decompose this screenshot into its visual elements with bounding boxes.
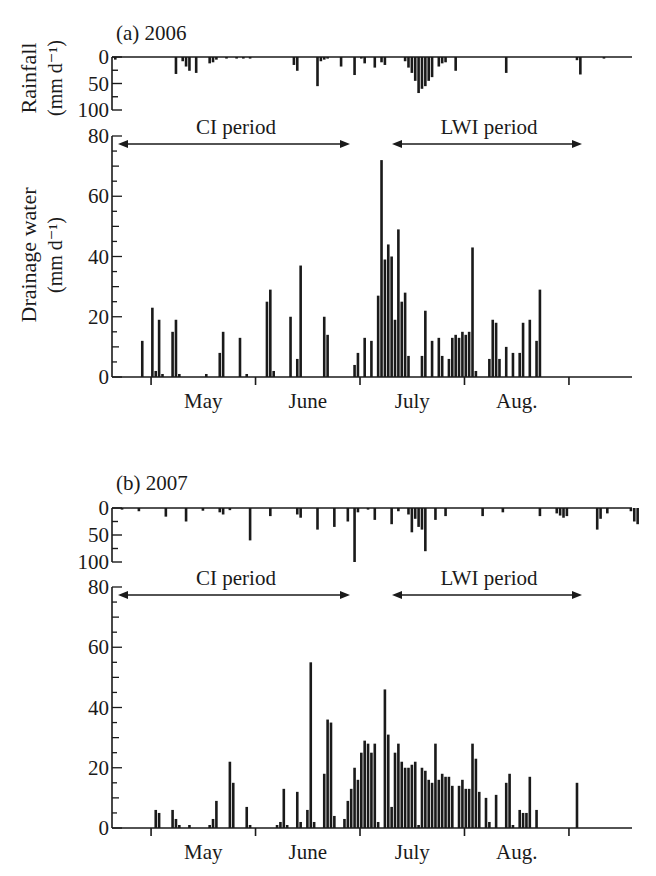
drain-tick-label: 80 [88,124,109,148]
drainage-bar [464,335,467,377]
drainage-bar [448,359,451,377]
drainage-bar [175,320,178,377]
drainage-bar [458,338,461,377]
drainage-bar [326,335,329,377]
rainfall-bar [222,508,225,514]
drainage-bar [269,290,272,377]
drainage-bar [522,813,525,828]
drainage-axis: 806040200 [88,575,632,840]
drainage-bar [512,825,515,828]
drainage-bar [478,792,481,828]
drainage-bars [141,160,541,377]
rainfall-bar [633,508,636,522]
drainage-bar [421,356,424,377]
rainfall-bar [293,57,296,65]
figure: (a) 2006 Rainfall (mm d⁻¹) Drainage wate… [0,0,656,876]
rainfall-bar [326,57,329,59]
drainage-bar [377,822,380,828]
rainfall-bar [175,57,178,74]
drainage-bar [539,290,542,377]
rainfall-axis: 050100 [78,45,633,122]
drainage-bar [390,257,393,378]
drainage-bar [232,783,235,828]
drainage-bar [171,810,174,828]
rainfall-bar [249,508,252,540]
drainage-bar [387,735,390,828]
month-axis: MayJuneJulyAug. [151,828,569,864]
rainfall-bar [411,508,414,532]
drainage-bar [512,353,515,377]
rainfall-bar [373,57,376,68]
month-axis: MayJuneJulyAug. [151,377,569,413]
drainage-bar [451,338,454,377]
rainfall-bar [539,508,542,516]
rainfall-bar [505,57,508,73]
svg-text:(mm d⁻¹): (mm d⁻¹) [44,217,67,293]
drainage-bar [451,786,454,828]
panel-2006: (a) 2006 Rainfall (mm d⁻¹) Drainage wate… [16,21,632,413]
rainfall-bar [397,508,400,511]
drain-tick-label: 60 [88,635,109,659]
month-label: June [289,840,328,864]
drainage-bar [178,374,181,377]
month-label: Aug. [496,840,537,864]
drainage-bar [222,332,225,377]
drainage-bar [299,266,302,377]
drainage-bar [491,320,494,377]
rainfall-bar [353,57,356,75]
rainfall-bar [249,57,252,59]
rainfall-axis-label: Rainfall (mm d⁻¹) [16,40,67,116]
drainage-bar [471,247,474,377]
drainage-bar [208,825,211,828]
period-label: CI period [196,566,276,590]
rainfall-bar [363,57,366,63]
rainfall-bar [218,508,221,512]
drainage-bar [431,783,434,828]
rainfall-bar [424,57,427,86]
rainfall-bar [599,508,602,519]
drainage-bar [363,741,366,828]
month-label: June [289,389,328,413]
rainfall-bar [202,508,205,511]
drainage-bar [350,789,353,828]
drainage-bar [468,789,471,828]
drainage-bar [171,332,174,377]
rainfall-bar [417,57,420,93]
drainage-bar [535,810,538,828]
drainage-bar [438,338,441,377]
drainage-bar [249,825,252,828]
rainfall-bar [441,57,444,63]
rainfall-bar [340,57,343,67]
rainfall-bar [636,508,639,524]
rainfall-bar [185,57,188,67]
lwi-period-arrow: LWI period [392,566,582,599]
drainage-bar [205,374,208,377]
drainage-bar [367,744,370,828]
drainage-bar [414,762,417,828]
drainage-bar [505,783,508,828]
rain-tick-label: 50 [88,72,109,96]
drainage-bar [272,371,275,377]
drainage-bar [245,807,248,828]
period-label: LWI period [441,566,538,590]
drainage-bar [407,768,410,828]
month-label: July [395,389,431,413]
rainfall-bar [229,508,232,510]
drainage-bar [353,768,356,828]
drainage-bar [333,816,336,828]
rainfall-bar [215,57,218,60]
drainage-bar [535,341,538,377]
drainage-bar [424,311,427,377]
drainage-bar [370,753,373,828]
drainage-bar [286,825,289,828]
drainage-bar [529,777,532,828]
drainage-bar [188,825,191,828]
rainfall-bar [380,57,383,62]
drainage-bar [404,293,407,377]
rainfall-bar [434,508,437,520]
rainfall-bar [481,508,484,516]
rain-tick-label: 100 [78,550,110,574]
rainfall-bar [606,508,609,513]
drainage-bar [158,813,161,828]
rainfall-bar [347,508,350,522]
